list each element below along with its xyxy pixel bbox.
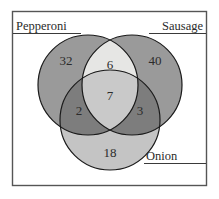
- count-pepperoni-sausage: 6: [107, 57, 114, 72]
- sausage-set-label: Sausage: [162, 19, 203, 33]
- venn-diagram-canvas: Pepperoni Sausage Onion 32 40 6 7 2 3 18: [0, 0, 219, 199]
- count-sausage-only: 40: [149, 53, 162, 68]
- count-onion-only: 18: [104, 145, 117, 160]
- venn-diagram-figure: Pepperoni Sausage Onion 32 40 6 7 2 3 18: [0, 0, 219, 199]
- pepperoni-set-label: Pepperoni: [16, 19, 67, 33]
- count-all-three: 7: [107, 88, 114, 103]
- onion-set-label: Onion: [146, 149, 178, 163]
- count-sausage-onion: 3: [137, 103, 144, 118]
- count-pepperoni-only: 32: [60, 53, 73, 68]
- count-pepperoni-onion: 2: [76, 103, 83, 118]
